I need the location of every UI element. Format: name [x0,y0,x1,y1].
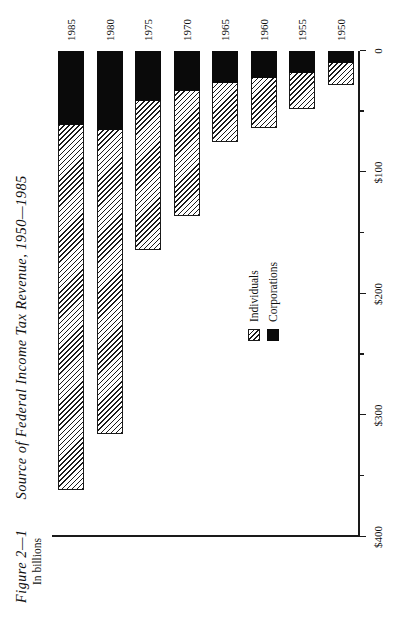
legend-label-corporations: Corporations [267,262,279,322]
legend-swatch-individuals-icon [248,329,260,341]
bar-segment-individuals [328,63,354,85]
axis-tick-label: 0 [372,48,384,54]
category-axis-label: 1980 [104,19,116,41]
rotated-figure-canvas: Figure 2—1 Source of Federal Income Tax … [0,0,398,619]
figure-chart: Figure 2—1 Source of Federal Income Tax … [0,0,398,619]
axis-tick-label: $400 [372,526,384,548]
axis-tick [360,171,366,172]
legend-item-corporations: Corporations [267,262,279,341]
bar-segment-individuals [251,78,277,128]
bar-segment-corporations [58,51,84,125]
bar-segment-corporations [97,51,123,130]
figure-heading: Figure 2—1 Source of Federal Income Tax … [12,175,30,603]
bar-segment-corporations [212,51,238,83]
bar-segment-individuals [212,83,238,143]
legend-item-individuals: Individuals [248,262,260,341]
chart-legend: Individuals Corporations [248,262,286,341]
bar-segment-corporations [251,51,277,78]
plot-area: 19501955196019651970197519801985 $400$30… [52,51,360,537]
bar-stack [289,51,315,109]
category-axis-label: 1970 [181,19,193,41]
axis-tick [360,414,366,415]
bar-segment-individuals [135,101,161,250]
bar-segment-corporations [289,51,315,73]
bar-stack [328,51,354,85]
bar-stack [58,51,84,490]
bar-stack [174,51,200,216]
category-axis-label: 1950 [335,19,347,41]
axis-tick [360,50,366,51]
axis-tick-minor [360,475,364,476]
axis-units-label: In billions [31,538,43,585]
category-axis-label: 1965 [219,19,231,41]
bar-stack [135,51,161,250]
bar-stack [212,51,238,142]
axis-tick [360,293,366,294]
legend-label-individuals: Individuals [248,270,260,322]
axis-tick-label: $200 [372,283,384,305]
bar-segment-individuals [58,125,84,490]
category-axis-label: 1975 [142,19,154,41]
axis-tick-label: $100 [372,162,384,184]
bar-segment-corporations [328,51,354,63]
legend-swatch-corporations-icon [267,329,279,341]
figure-number: Figure 2—1 [14,529,30,603]
bar-segment-individuals [97,130,123,434]
axis-tick-minor [360,232,364,233]
bar-segment-individuals [174,91,200,216]
category-axis-label: 1960 [258,19,270,41]
bar-segment-individuals [289,73,315,109]
category-axis-label: 1985 [65,19,77,41]
bar-stack [251,51,277,128]
axis-tick [360,536,366,537]
axis-tick-minor [360,353,364,354]
bar-segment-corporations [135,51,161,101]
axis-tick-minor [360,110,364,111]
page-title: Source of Federal Income Tax Revenue, 19… [13,175,30,499]
axis-tick-label: $300 [372,405,384,427]
bar-group: 19501955196019651970197519801985 [52,51,360,537]
bar-stack [97,51,123,434]
category-axis-label: 1955 [296,19,308,41]
bar-segment-corporations [174,51,200,91]
